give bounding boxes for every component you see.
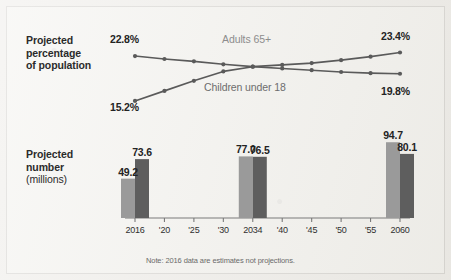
bar-light-2060 <box>386 142 400 218</box>
axis-tick-label-40: '40 <box>277 225 288 235</box>
line-data-point <box>221 69 225 73</box>
line-data-point <box>310 68 314 72</box>
axis-tick-label-2034: 2034 <box>243 225 262 235</box>
bar-value-g2060-light: 94.7 <box>383 129 403 141</box>
bar-chart <box>0 130 451 240</box>
footnote: Note: 2016 data are estimates not projec… <box>146 256 295 265</box>
axis-tick-label-45: '45 <box>306 225 317 235</box>
bar-dark-2060 <box>400 154 414 218</box>
line-data-point <box>398 72 402 76</box>
axis-tick-label-2016: 2016 <box>125 225 144 235</box>
line-data-point <box>162 57 166 61</box>
bar-value-g2034-dark: 76.5 <box>250 144 270 156</box>
line-data-point <box>280 66 284 70</box>
line-chart <box>0 0 451 130</box>
figure-root: Projected percentage of population 22.8%… <box>0 0 451 280</box>
line-data-point <box>368 55 372 59</box>
axis-tick-label-2060: 2060 <box>390 225 409 235</box>
line-data-point <box>339 58 343 62</box>
line-data-point <box>310 61 314 65</box>
line-data-point <box>368 71 372 75</box>
line-data-point <box>162 89 166 93</box>
axis-tick-label-30: '30 <box>218 225 229 235</box>
line-data-point <box>133 54 137 58</box>
line-data-point <box>192 59 196 63</box>
line-data-point <box>398 50 402 54</box>
axis-tick-label-50: '50 <box>336 225 347 235</box>
line-data-point <box>133 99 137 103</box>
bar-light-2016 <box>121 179 135 218</box>
axis-tick-label-55: '55 <box>365 225 376 235</box>
line-series-adults-65 <box>133 50 402 103</box>
line-data-point <box>221 62 225 66</box>
axis-tick-label-20: '20 <box>159 225 170 235</box>
bar-value-g2016-dark: 73.6 <box>132 146 152 158</box>
line-data-point <box>339 70 343 74</box>
bar-dark-2034 <box>253 157 267 218</box>
bar-value-g2016-light: 49.2 <box>118 166 138 178</box>
bar-light-2034 <box>239 156 253 218</box>
axis-tick-label-25: '25 <box>188 225 199 235</box>
bar-value-g2060-dark: 80.1 <box>397 141 417 153</box>
line-data-point <box>251 65 255 69</box>
line-data-point <box>192 79 196 83</box>
